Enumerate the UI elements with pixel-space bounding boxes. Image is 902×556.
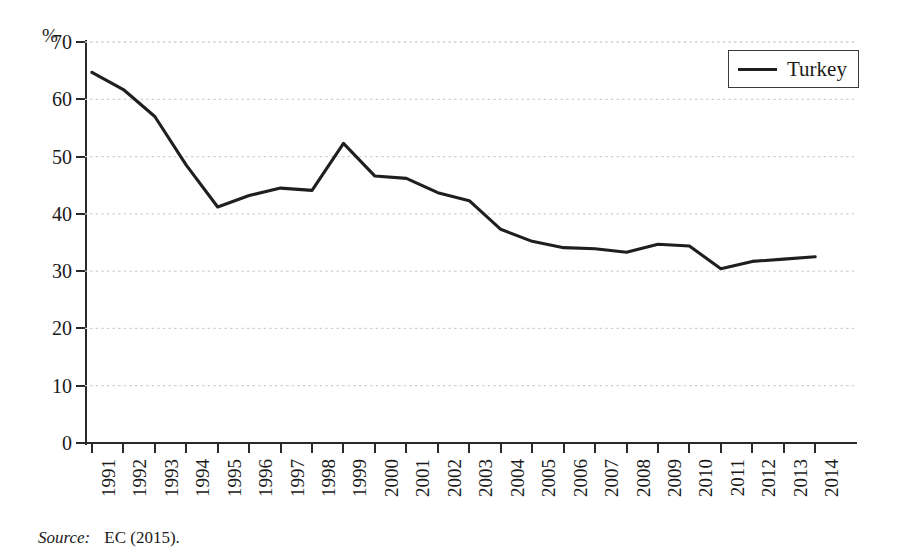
x-tick-label-2008: 2008 (634, 459, 653, 497)
x-tick-label-1993: 1993 (162, 459, 181, 497)
x-tick-label-2000: 2000 (382, 459, 401, 497)
y-tick-mark-0 (76, 442, 85, 444)
x-tick-label-2009: 2009 (665, 459, 684, 497)
x-tick-mark-2013 (783, 444, 785, 453)
x-tick-label-2006: 2006 (571, 459, 590, 497)
y-tick-mark-40 (76, 213, 85, 215)
y-tick-label-40: 40 (38, 204, 72, 224)
x-tick-mark-2003 (468, 444, 470, 453)
x-tick-mark-2000 (374, 444, 376, 453)
y-tick-label-60: 60 (38, 89, 72, 109)
data-series-layer (85, 42, 857, 443)
x-tick-label-2010: 2010 (696, 459, 715, 497)
x-tick-label-1998: 1998 (319, 459, 338, 497)
y-axis-tick-labels: 010203040506070 (34, 0, 72, 556)
y-tick-label-20: 20 (38, 318, 72, 338)
x-tick-label-2011: 2011 (728, 459, 747, 496)
y-tick-mark-30 (76, 270, 85, 272)
x-tick-mark-1993 (154, 444, 156, 453)
x-tick-mark-2002 (437, 444, 439, 453)
x-tick-mark-1997 (280, 444, 282, 453)
x-tick-label-2012: 2012 (759, 459, 778, 497)
x-tick-label-2002: 2002 (445, 459, 464, 497)
x-tick-mark-2011 (720, 444, 722, 453)
y-tick-label-70: 70 (38, 32, 72, 52)
x-tick-label-1992: 1992 (130, 459, 149, 497)
x-tick-mark-2004 (500, 444, 502, 453)
x-tick-label-2005: 2005 (539, 459, 558, 497)
plot-area (85, 42, 857, 443)
y-tick-label-30: 30 (38, 261, 72, 281)
x-tick-label-1994: 1994 (193, 459, 212, 497)
x-tick-label-2004: 2004 (508, 459, 527, 497)
x-tick-label-2007: 2007 (602, 459, 621, 497)
x-tick-mark-1996 (248, 444, 250, 453)
x-tick-mark-1999 (342, 444, 344, 453)
y-tick-mark-60 (76, 98, 85, 100)
y-tick-mark-20 (76, 327, 85, 329)
x-tick-mark-2010 (688, 444, 690, 453)
y-tick-label-0: 0 (38, 433, 72, 453)
x-tick-mark-2006 (563, 444, 565, 453)
x-tick-label-2014: 2014 (822, 459, 841, 497)
x-tick-label-2003: 2003 (476, 459, 495, 497)
x-tick-label-1997: 1997 (288, 459, 307, 497)
x-tick-label-1995: 1995 (225, 459, 244, 497)
y-tick-label-50: 50 (38, 147, 72, 167)
x-tick-mark-1995 (217, 444, 219, 453)
x-tick-mark-1998 (311, 444, 313, 453)
x-tick-mark-2005 (531, 444, 533, 453)
source-note: Source:EC (2015). (38, 528, 180, 548)
x-tick-mark-2014 (814, 444, 816, 453)
y-tick-mark-70 (76, 41, 85, 43)
source-note-text: EC (2015). (104, 528, 180, 547)
legend-line-swatch-turkey (738, 68, 777, 71)
x-tick-mark-2001 (405, 444, 407, 453)
legend-label-turkey: Turkey (787, 59, 847, 80)
y-tick-mark-10 (76, 385, 85, 387)
y-tick-mark-50 (76, 156, 85, 158)
x-tick-mark-1992 (122, 444, 124, 453)
chart-legend: Turkey (728, 50, 859, 88)
x-tick-mark-2009 (657, 444, 659, 453)
y-tick-label-10: 10 (38, 376, 72, 396)
x-tick-mark-2012 (751, 444, 753, 453)
x-tick-label-1991: 1991 (99, 459, 118, 497)
x-tick-mark-1994 (185, 444, 187, 453)
x-tick-label-1999: 1999 (350, 459, 369, 497)
x-tick-label-2001: 2001 (413, 459, 432, 497)
x-tick-label-1996: 1996 (256, 459, 275, 497)
source-note-word: Source: (38, 528, 90, 547)
x-tick-mark-1991 (91, 444, 93, 453)
x-tick-mark-2007 (594, 444, 596, 453)
x-tick-mark-2008 (626, 444, 628, 453)
x-tick-label-2013: 2013 (791, 459, 810, 497)
chart-figure: % 010203040506070 1991199219931994199519… (0, 0, 902, 556)
series-line-turkey (92, 72, 815, 268)
